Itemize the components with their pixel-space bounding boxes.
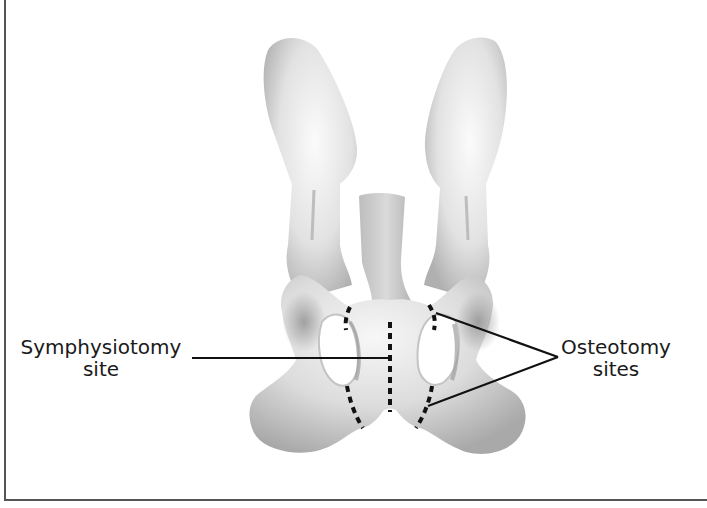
osteotomy-label-line2: sites — [552, 358, 680, 380]
pelvis-illustration — [0, 0, 707, 508]
right-ilium — [424, 38, 507, 300]
left-ilium — [264, 38, 357, 300]
sacrum — [359, 193, 420, 315]
osteotomy-label-line1: Osteotomy — [552, 336, 680, 358]
symphysiotomy-label-line2: site — [8, 358, 194, 380]
symphysiotomy-label-line1: Symphysiotomy — [8, 336, 194, 358]
pelvic-floor — [250, 275, 526, 454]
osteotomy-sites-label: Osteotomy sites — [552, 336, 680, 380]
symphysiotomy-site-label: Symphysiotomy site — [8, 336, 194, 380]
